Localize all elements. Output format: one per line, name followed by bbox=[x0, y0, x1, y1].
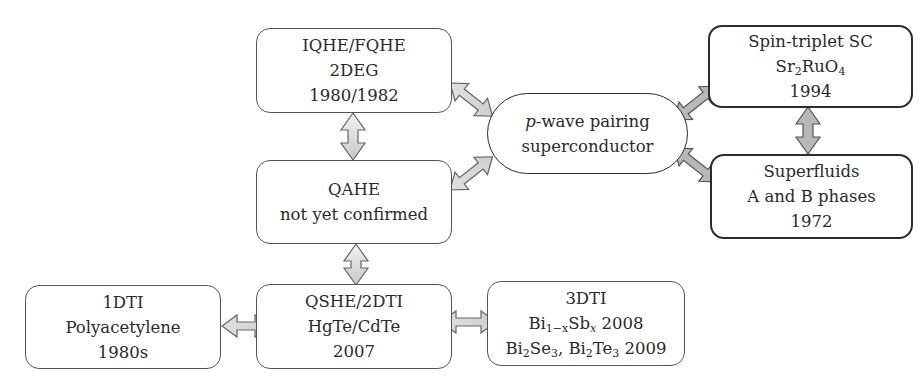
node-subtitle: Polyacetylene bbox=[65, 315, 180, 340]
node-subtitle: HgTe/CdTe bbox=[308, 314, 401, 339]
node-title: p-wave pairing bbox=[525, 109, 649, 134]
node-subtitle: 2DEG bbox=[330, 58, 379, 83]
node-iqhe-fqhe: IQHE/FQHE 2DEG 1980/1982 bbox=[256, 28, 452, 113]
node-spin-triplet-sc: Spin-triplet SC Sr2RuO4 1994 bbox=[708, 25, 913, 108]
node-year: 1980s bbox=[98, 340, 148, 365]
node-title: Spin-triplet SC bbox=[748, 29, 873, 54]
arrow-qahe-qshe bbox=[344, 244, 368, 285]
node-pwave-superconductor: p-wave pairing superconductor bbox=[487, 93, 688, 174]
node-title: QSHE/2DTI bbox=[305, 289, 403, 314]
node-title: IQHE/FQHE bbox=[302, 33, 405, 58]
node-formula-bisb: Bi1−xSbx 2008 bbox=[528, 311, 643, 336]
node-formula-bise-bite: Bi2Se3, Bi2Te3 2009 bbox=[505, 336, 666, 361]
node-year: 2007 bbox=[333, 339, 375, 364]
node-title: 1DTI bbox=[102, 290, 143, 315]
node-formula: Sr2RuO4 bbox=[776, 54, 846, 79]
node-year: 1972 bbox=[791, 209, 833, 234]
node-title: Superfluids bbox=[763, 159, 859, 184]
node-subtitle: superconductor bbox=[522, 134, 654, 159]
node-year: 1994 bbox=[790, 79, 832, 104]
node-subtitle: not yet confirmed bbox=[280, 202, 428, 227]
node-title: QAHE bbox=[328, 177, 380, 202]
node-qshe-2dti: QSHE/2DTI HgTe/CdTe 2007 bbox=[256, 284, 452, 369]
node-qahe: QAHE not yet confirmed bbox=[256, 160, 452, 244]
node-subtitle: A and B phases bbox=[747, 184, 876, 209]
node-title: 3DTI bbox=[565, 286, 606, 311]
arrow-iqhe-qahe bbox=[341, 113, 365, 160]
arrow-spintriplet-superfluids bbox=[796, 107, 820, 154]
node-1dti: 1DTI Polyacetylene 1980s bbox=[25, 285, 221, 369]
node-year: 1980/1982 bbox=[309, 83, 399, 108]
node-superfluids: Superfluids A and B phases 1972 bbox=[710, 154, 913, 239]
node-3dti: 3DTI Bi1−xSbx 2008 Bi2Se3, Bi2Te3 2009 bbox=[487, 281, 685, 366]
